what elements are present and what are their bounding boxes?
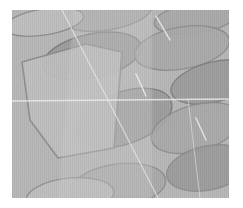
figure-root: Grayscale micrograph of overlapping lens… <box>0 0 243 208</box>
micrograph-image <box>0 0 243 208</box>
detector-noise-texture <box>12 10 229 198</box>
